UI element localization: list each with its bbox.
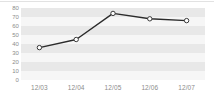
x-tick-label: 12/04 bbox=[59, 84, 93, 92]
plot-area bbox=[21, 8, 205, 80]
x-tick-label: 12/07 bbox=[170, 84, 204, 92]
y-tick-label: 60 bbox=[0, 23, 19, 29]
y-axis: 01020304050607080 bbox=[0, 0, 19, 104]
data-series-layer bbox=[21, 8, 205, 80]
y-tick-label: 0 bbox=[0, 77, 19, 83]
y-tick-label: 80 bbox=[0, 5, 19, 11]
x-tick-label: 12/06 bbox=[133, 84, 167, 92]
data-point-marker[interactable] bbox=[184, 18, 188, 22]
x-tick-label: 12/05 bbox=[96, 84, 130, 92]
y-tick-label: 20 bbox=[0, 59, 19, 65]
y-tick-label: 50 bbox=[0, 32, 19, 38]
data-point-marker[interactable] bbox=[111, 11, 115, 15]
data-point-marker[interactable] bbox=[148, 17, 152, 21]
x-axis: 12/0312/0412/0512/0612/07 bbox=[21, 84, 205, 98]
line-chart: 01020304050607080 12/0312/0412/0512/0612… bbox=[0, 0, 214, 104]
data-point-marker[interactable] bbox=[74, 37, 78, 41]
data-point-marker[interactable] bbox=[37, 45, 41, 49]
top-divider bbox=[0, 1, 214, 2]
y-tick-label: 40 bbox=[0, 41, 19, 47]
series-line bbox=[39, 13, 186, 47]
y-tick-label: 10 bbox=[0, 68, 19, 74]
y-tick-label: 30 bbox=[0, 50, 19, 56]
y-tick-label: 70 bbox=[0, 14, 19, 20]
x-tick-label: 12/03 bbox=[22, 84, 56, 92]
